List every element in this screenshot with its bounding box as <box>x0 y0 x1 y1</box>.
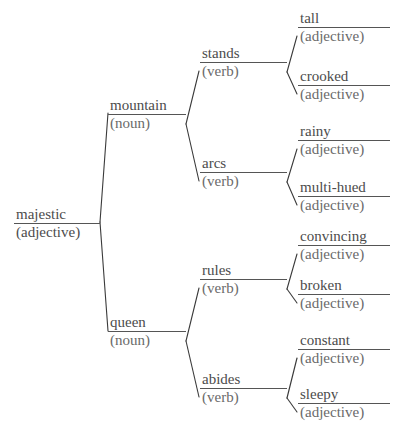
node-rainy-pos: (adjective) <box>298 141 390 157</box>
node-tall-pos: (adjective) <box>298 28 390 44</box>
edge-stands-to-crooked <box>287 72 297 94</box>
node-tall-word: tall <box>298 11 390 27</box>
node-queen-word: queen <box>108 315 186 331</box>
node-rules-word: rules <box>200 263 287 279</box>
edge-arcs-to-multihued <box>287 182 297 205</box>
node-rules[interactable]: rules (verb) <box>200 263 287 296</box>
edge-root-to-queen <box>100 222 108 331</box>
node-multi-hued-word: multi-hued <box>298 180 390 196</box>
node-rainy-word: rainy <box>298 124 390 140</box>
node-multi-hued-pos: (adjective) <box>298 197 390 213</box>
node-queen-pos: (noun) <box>108 332 186 348</box>
edge-mountain-to-stands <box>186 71 199 124</box>
node-stands-pos: (verb) <box>200 63 287 79</box>
edge-queen-to-abides <box>186 341 199 397</box>
node-abides-pos: (verb) <box>200 389 287 405</box>
node-majestic-word: majestic <box>14 207 100 223</box>
edge-stands-to-tall <box>287 36 297 72</box>
node-abides[interactable]: abides (verb) <box>200 372 287 405</box>
node-constant[interactable]: constant (adjective) <box>298 333 390 366</box>
node-arcs-word: arcs <box>200 156 287 172</box>
node-majestic-pos: (adjective) <box>14 224 100 240</box>
node-broken-pos: (adjective) <box>298 295 390 311</box>
node-convincing-word: convincing <box>298 229 390 245</box>
node-broken-word: broken <box>298 278 390 294</box>
node-queen[interactable]: queen (noun) <box>108 315 186 348</box>
node-mountain[interactable]: mountain (noun) <box>108 98 186 131</box>
node-arcs[interactable]: arcs (verb) <box>200 156 287 189</box>
edge-root-to-mountain <box>100 113 108 222</box>
edge-mountain-to-arcs <box>186 124 199 181</box>
node-rainy[interactable]: rainy (adjective) <box>298 124 390 157</box>
node-convincing-pos: (adjective) <box>298 246 390 262</box>
edge-abides-to-constant <box>287 358 297 398</box>
node-crooked[interactable]: crooked (adjective) <box>298 69 390 102</box>
edge-queen-to-rules <box>186 288 199 341</box>
node-constant-word: constant <box>298 333 390 349</box>
node-mountain-pos: (noun) <box>108 115 186 131</box>
node-constant-pos: (adjective) <box>298 350 390 366</box>
node-majestic[interactable]: majestic (adjective) <box>14 207 100 240</box>
edge-abides-to-sleepy <box>287 398 297 412</box>
node-crooked-word: crooked <box>298 69 390 85</box>
node-sleepy-word: sleepy <box>298 387 390 403</box>
node-crooked-pos: (adjective) <box>298 86 390 102</box>
edge-rules-to-broken <box>287 289 297 303</box>
node-sleepy[interactable]: sleepy (adjective) <box>298 387 390 420</box>
node-multi-hued[interactable]: multi-hued (adjective) <box>298 180 390 213</box>
node-arcs-pos: (verb) <box>200 173 287 189</box>
edge-arcs-to-rainy <box>287 149 297 182</box>
node-broken[interactable]: broken (adjective) <box>298 278 390 311</box>
node-tall[interactable]: tall (adjective) <box>298 11 390 44</box>
node-abides-word: abides <box>200 372 287 388</box>
word-tree-diagram: majestic (adjective) mountain (noun) que… <box>0 0 406 442</box>
node-stands[interactable]: stands (verb) <box>200 46 287 79</box>
node-convincing[interactable]: convincing (adjective) <box>298 229 390 262</box>
node-rules-pos: (verb) <box>200 280 287 296</box>
node-mountain-word: mountain <box>108 98 186 114</box>
edge-rules-to-convincing <box>287 254 297 289</box>
node-sleepy-pos: (adjective) <box>298 404 390 420</box>
node-stands-word: stands <box>200 46 287 62</box>
